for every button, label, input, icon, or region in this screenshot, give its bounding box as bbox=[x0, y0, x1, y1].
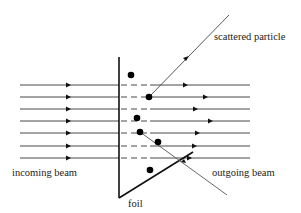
beam-arrow-icon bbox=[66, 95, 71, 100]
beam-arrow-icon bbox=[187, 156, 192, 161]
deflected-particle-path bbox=[140, 132, 227, 195]
deflected-particle-line bbox=[140, 132, 227, 195]
beam-arrow-icon bbox=[208, 119, 213, 124]
nucleus bbox=[137, 129, 144, 136]
beam-line bbox=[20, 107, 250, 112]
beam-arrow-icon bbox=[195, 131, 200, 136]
label-foil: foil bbox=[128, 198, 143, 209]
beam-arrow-icon bbox=[66, 107, 71, 112]
nucleus bbox=[146, 94, 153, 101]
beam-arrow-icon bbox=[203, 95, 208, 100]
beam-line bbox=[20, 144, 250, 149]
nucleus bbox=[147, 167, 154, 174]
beam-arrow-icon bbox=[66, 119, 71, 124]
beam-arrow-icon bbox=[66, 144, 71, 149]
nucleus bbox=[134, 115, 141, 122]
nucleus bbox=[128, 72, 135, 79]
foil-bottom-edge bbox=[119, 152, 193, 198]
beam-lines bbox=[20, 83, 250, 161]
beam-arrow-icon bbox=[192, 144, 197, 149]
rutherford-scattering-diagram: scattered particle incoming beam outgoin… bbox=[0, 0, 301, 213]
beam-arrow-icon bbox=[66, 156, 71, 161]
scattered-particle-arrow-icon bbox=[183, 56, 189, 61]
beam-arrow-icon bbox=[66, 131, 71, 136]
nucleus bbox=[155, 139, 162, 146]
beam-arrow-icon bbox=[193, 107, 198, 112]
label-incoming-beam: incoming beam bbox=[12, 167, 77, 178]
beam-line bbox=[20, 131, 250, 136]
beam-line bbox=[20, 156, 250, 161]
label-outgoing-beam: outgoing beam bbox=[212, 167, 275, 178]
beam-arrow-icon bbox=[183, 83, 188, 88]
beam-arrow-icon bbox=[66, 83, 71, 88]
label-scattered-particle: scattered particle bbox=[214, 31, 286, 42]
beam-line bbox=[20, 83, 250, 88]
beam-line bbox=[20, 95, 250, 100]
